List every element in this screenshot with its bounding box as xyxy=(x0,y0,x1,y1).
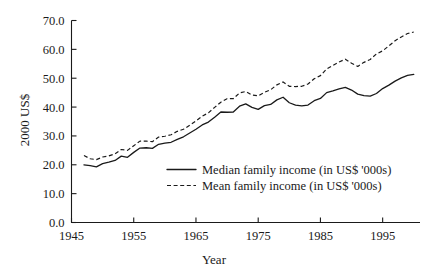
y-tick-label: 60.0 xyxy=(43,43,65,57)
legend: Median family income (in US$ '000s) Mean… xyxy=(167,163,391,193)
y-tick-label: 10.0 xyxy=(43,187,65,201)
x-tick-label: 1975 xyxy=(246,229,271,243)
legend-label-mean: Mean family income (in US$ '000s) xyxy=(202,179,382,193)
y-tick-label: 70.0 xyxy=(43,14,65,28)
y-axis-tick-labels: 0.010.020.030.040.050.060.070.0 xyxy=(43,14,65,230)
x-tick-label: 1955 xyxy=(121,229,146,243)
y-tick-label: 50.0 xyxy=(43,72,65,86)
y-axis-title: 2000 US$ xyxy=(17,93,32,146)
line-chart: 0.010.020.030.040.050.060.070.0 19451955… xyxy=(0,0,435,274)
x-axis-tick-labels: 194519551965197519851995 xyxy=(59,229,395,243)
y-tick-label: 20.0 xyxy=(43,158,65,172)
legend-label-median: Median family income (in US$ '000s) xyxy=(202,163,391,177)
x-tick-label: 1995 xyxy=(370,229,395,243)
series-median-family-income xyxy=(84,74,414,166)
x-axis-title: Year xyxy=(202,252,227,267)
chart-figure: 0.010.020.030.040.050.060.070.0 19451955… xyxy=(0,0,435,274)
y-tick-label: 40.0 xyxy=(43,101,65,115)
x-tick-label: 1945 xyxy=(59,229,84,243)
y-tick-label: 30.0 xyxy=(43,129,65,143)
x-tick-label: 1985 xyxy=(308,229,333,243)
x-tick-label: 1965 xyxy=(183,229,208,243)
